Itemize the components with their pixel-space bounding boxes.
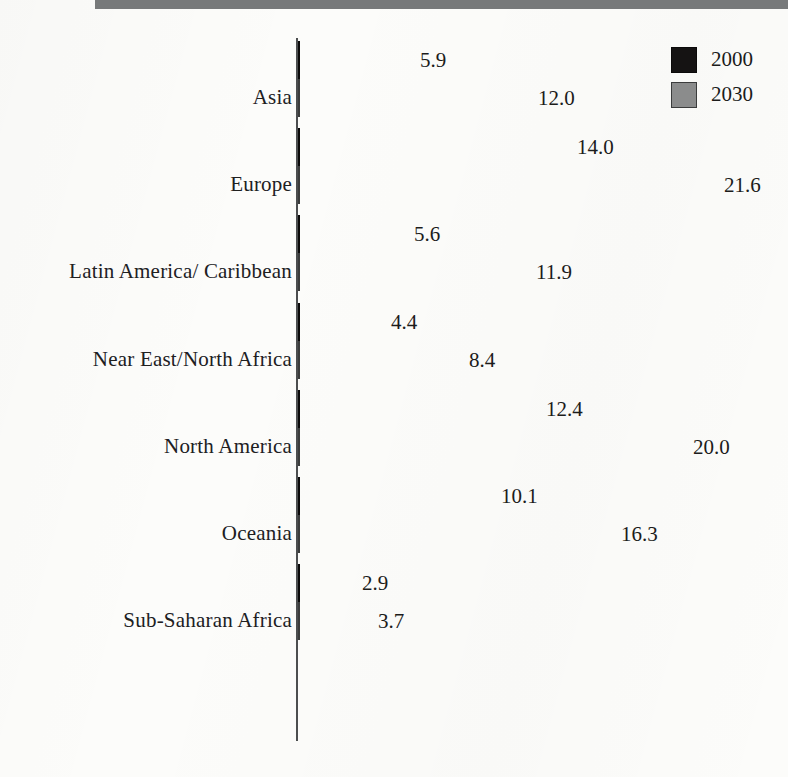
bar-2030: [298, 341, 300, 379]
bar-2030: [298, 253, 300, 291]
bar-value-label: 11.9: [528, 260, 572, 285]
legend-item-2000: 2000: [671, 42, 781, 77]
bar-row: 12.4: [298, 390, 538, 428]
bar-value-label: 21.6: [716, 173, 761, 198]
bar-2030: [298, 515, 300, 553]
legend-item-2030: 2030: [671, 77, 781, 112]
bar-value-label: 4.4: [383, 309, 417, 334]
bar-value-label: 5.6: [406, 222, 440, 247]
bar-2000: [298, 390, 300, 428]
bar-row: 20.0: [298, 428, 685, 466]
grouped-bar-chart: Asia5.912.0Europe14.021.6Latin America/ …: [0, 0, 788, 777]
category-label: Asia: [12, 85, 292, 110]
bar-row: 2.9: [298, 564, 354, 602]
bar-2030: [298, 428, 300, 466]
category-label: Latin America/ Caribbean: [12, 259, 292, 284]
bar-value-label: 12.4: [538, 396, 583, 421]
legend-label-2030: 2030: [711, 82, 753, 107]
bar-value-label: 8.4: [461, 347, 495, 372]
bar-value-label: 5.9: [412, 48, 446, 73]
bar-value-label: 16.3: [613, 522, 658, 547]
category-label: North America: [12, 434, 292, 459]
bar-value-label: 12.0: [530, 86, 575, 111]
bar-row: 11.9: [298, 253, 528, 291]
bar-row: 5.6: [298, 215, 406, 253]
bar-2000: [298, 564, 300, 602]
bar-row: 10.1: [298, 477, 493, 515]
legend-swatch-2000: [671, 47, 697, 73]
bar-row: 16.3: [298, 515, 613, 553]
bar-2030: [298, 79, 300, 117]
bar-value-label: 10.1: [493, 484, 538, 509]
legend-swatch-2030: [671, 82, 697, 108]
bar-2000: [298, 128, 300, 166]
bar-row: 12.0: [298, 79, 530, 117]
bar-2030: [298, 166, 300, 204]
category-label: Oceania: [12, 521, 292, 546]
bar-row: 14.0: [298, 128, 569, 166]
bar-value-label: 3.7: [370, 609, 404, 634]
bar-2030: [298, 602, 300, 640]
bar-row: 21.6: [298, 166, 716, 204]
bar-2000: [298, 41, 300, 79]
bar-row: 3.7: [298, 602, 370, 640]
bar-value-label: 2.9: [354, 571, 388, 596]
bar-2000: [298, 303, 300, 341]
bar-row: 5.9: [298, 41, 412, 79]
bar-row: 8.4: [298, 341, 461, 379]
bar-2000: [298, 477, 300, 515]
legend-label-2000: 2000: [711, 47, 753, 72]
bar-value-label: 14.0: [569, 135, 614, 160]
bar-value-label: 20.0: [685, 434, 730, 459]
bar-row: 4.4: [298, 303, 383, 341]
bar-2000: [298, 215, 300, 253]
category-label: Near East/North Africa: [12, 347, 292, 372]
chart-legend: 20002030: [671, 42, 781, 112]
category-label: Europe: [12, 172, 292, 197]
category-label: Sub-Saharan Africa: [12, 608, 292, 633]
